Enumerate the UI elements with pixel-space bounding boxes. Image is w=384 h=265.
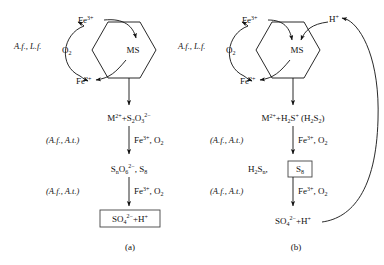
panel-b-cycle-organisms: A.f., L.f. [177, 41, 205, 51]
panel-a-ms-label: MS [126, 45, 139, 55]
panel-b-arrow-recycle-to-hplus [342, 18, 348, 20]
panel-b-step1-species: M2++H2S+ (H2S2) [261, 113, 324, 124]
panel-a-caption: (a) [125, 242, 135, 252]
panel-a-catalyst2-organisms: (A.f., A.t.) [46, 186, 80, 196]
panel-b-catalyst1-oxidant: Fe3+, O2 [298, 135, 327, 146]
panel-a-catalyst1-oxidant: Fe3+, O2 [134, 135, 163, 146]
panel-a-catalyst1-organisms: (A.f., A.t.) [46, 135, 80, 145]
panel-b-fe3-label: Fe3+ [242, 15, 258, 25]
panel-a-fe2-label: Fe2+ [76, 76, 92, 86]
panel-b-o2-label: O2 [226, 45, 236, 56]
panel-b-mineral-hexagon [256, 22, 320, 78]
panel-b: MS A.f., L.f. Fe3+ Fe2+ O2 H+ M2++H2S+ (… [177, 14, 378, 252]
panel-b-arrow-ms-to-fe2 [260, 60, 290, 80]
panel-a-step1-species: M2++S2O32− [107, 112, 151, 124]
panel-a-cycle-organisms: A.f., L.f. [13, 41, 41, 51]
panel-b-ms-label: MS [290, 45, 303, 55]
panel-b-proton-label: H+ [329, 14, 340, 24]
panel-a: MS A.f., L.f. Fe3+ Fe2+ O2 M2++S2O32− (A… [13, 15, 163, 252]
panel-b-catalyst1-organisms: (A.f., A.t.) [210, 135, 244, 145]
panel-b-step2-species: H2Sn, [248, 164, 268, 175]
panel-b-s8-species: S8 [296, 164, 304, 175]
panel-a-fe3-label: Fe3+ [78, 15, 94, 25]
panel-a-arrow-ms-to-fe2 [96, 60, 126, 80]
panel-a-step2-species: SnO62−, S8 [111, 163, 147, 175]
panel-a-product-species: SO42−+H+ [112, 213, 148, 225]
panel-b-fe2-label: Fe2+ [240, 76, 256, 86]
panel-b-product-species: SO42−+H+ [275, 215, 311, 227]
panel-a-o2-label: O2 [62, 45, 72, 56]
thiosulfate-polysulfide-pathway-figure: MS A.f., L.f. Fe3+ Fe2+ O2 M2++S2O32− (A… [0, 0, 384, 265]
panel-b-caption: (b) [291, 242, 302, 252]
pathway-diagram-svg: MS A.f., L.f. Fe3+ Fe2+ O2 M2++S2O32− (A… [0, 0, 384, 265]
panel-b-catalyst2-organisms: (A.f., A.t.) [210, 186, 244, 196]
panel-b-proton-recycle-path [322, 20, 378, 222]
panel-a-catalyst2-oxidant: Fe3+, O2 [134, 186, 163, 197]
panel-b-catalyst2-oxidant: Fe3+, O2 [298, 186, 327, 197]
panel-a-mineral-hexagon [92, 22, 156, 78]
